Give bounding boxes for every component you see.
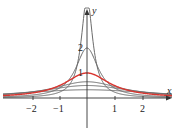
tick-label-2: 2	[140, 103, 145, 114]
x-axis-label: x	[166, 85, 172, 96]
y-tick-label-1: 1	[78, 67, 83, 78]
tick-label-1: 1	[112, 103, 117, 114]
tick-label-neg2: −2	[26, 103, 37, 114]
curves	[3, 8, 172, 97]
tick-label-neg1: −1	[53, 103, 64, 114]
y-axis-arrow-icon	[85, 9, 90, 15]
y-tick-label-2: 2	[78, 42, 83, 53]
curve-c-4	[3, 8, 172, 97]
plot-area: x y −2 −1 1 2 2 1	[0, 0, 177, 136]
y-axis-label: y	[91, 5, 97, 16]
chart: x y −2 −1 1 2 2 1	[0, 0, 177, 136]
